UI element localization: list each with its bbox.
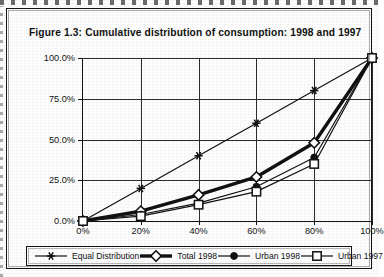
star-marker: [47, 252, 55, 259]
x-tick-label: 80%: [305, 226, 323, 236]
circle-filled-marker: [217, 249, 251, 263]
y-tick-label: 50.0%: [49, 135, 75, 145]
star-marker: [252, 120, 260, 127]
gridline-vertical: [372, 58, 373, 221]
plot-area: 0.0%25.0%50.0%75.0%100.0% 0%20%40%60%80%…: [13, 47, 379, 237]
x-tick: [199, 221, 200, 225]
x-tick-label: 40%: [189, 226, 207, 236]
diamond-open-marker: [151, 251, 161, 261]
x-tick-label: 0%: [76, 226, 89, 236]
x-tick: [372, 221, 373, 225]
chart-legend: Equal DistributionTotal 1998Urban 1998Ur…: [26, 246, 352, 266]
legend-item[interactable]: Equal Distribution: [34, 249, 139, 263]
diamond-open-marker: [193, 190, 203, 200]
x-tick-label: 60%: [247, 226, 265, 236]
star-marker: [310, 87, 318, 94]
x-tick: [141, 221, 142, 225]
legend-item[interactable]: Total 1998: [139, 249, 217, 263]
star-marker: [34, 249, 68, 263]
scan-edge-artifact-left: [0, 6, 3, 277]
y-tick-label: 0.0%: [54, 216, 75, 226]
legend-label: Equal Distribution: [70, 251, 139, 261]
square-open-marker: [79, 217, 87, 225]
legend-label: Total 1998: [175, 251, 217, 261]
scan-edge-artifact-top: [0, 0, 379, 5]
square-open-marker: [310, 160, 318, 168]
y-tick-label: 100.0%: [44, 53, 75, 63]
legend-item[interactable]: Urban 1997: [300, 249, 383, 263]
x-tick-label: 100%: [360, 226, 384, 236]
data-series-layer: [83, 58, 372, 221]
legend-label: Urban 1998: [253, 251, 300, 261]
circle-filled-marker: [231, 253, 238, 260]
star-marker: [194, 152, 202, 159]
square-open-marker: [368, 54, 376, 62]
x-tick-label: 20%: [132, 226, 150, 236]
plot-canvas: 0.0%25.0%50.0%75.0%100.0% 0%20%40%60%80%…: [83, 58, 372, 221]
figure-frame: Figure 1.3: Cumulative distribution of c…: [6, 8, 372, 269]
square-open-marker: [137, 212, 145, 220]
x-axis-line: [82, 221, 373, 222]
y-tick-label: 75.0%: [49, 94, 75, 104]
square-open-marker: [252, 187, 260, 195]
square-open-marker: [300, 249, 334, 263]
series-equal-distribution: [79, 54, 376, 224]
x-tick: [256, 221, 257, 225]
square-open-marker: [194, 201, 202, 209]
star-marker: [137, 185, 145, 192]
figure-title: Figure 1.3: Cumulative distribution of c…: [29, 27, 359, 38]
legend-label: Urban 1997: [336, 251, 383, 261]
square-open-marker: [313, 252, 321, 260]
diamond-open-marker: [139, 249, 173, 263]
x-tick: [314, 221, 315, 225]
y-tick-label: 25.0%: [49, 175, 75, 185]
legend-item[interactable]: Urban 1998: [217, 249, 300, 263]
